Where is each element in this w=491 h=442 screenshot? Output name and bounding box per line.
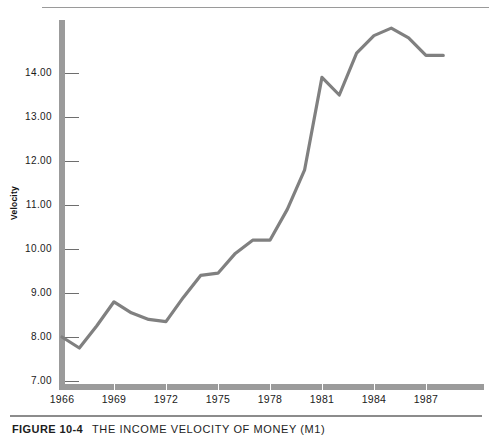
velocity-line-series bbox=[0, 0, 491, 400]
figure-title: THE INCOME VELOCITY OF MONEY (M1) bbox=[92, 423, 325, 435]
figure-caption: FIGURE 10-4THE INCOME VELOCITY OF MONEY … bbox=[12, 423, 325, 435]
figure-container: Velocity 7.008.009.0010.0011.0012.0013.0… bbox=[0, 0, 491, 442]
chart-plot-area: Velocity 7.008.009.0010.0011.0012.0013.0… bbox=[0, 0, 491, 400]
figure-number: FIGURE 10-4 bbox=[12, 423, 83, 435]
caption-divider-rule bbox=[10, 415, 482, 417]
velocity-polyline bbox=[62, 28, 443, 348]
